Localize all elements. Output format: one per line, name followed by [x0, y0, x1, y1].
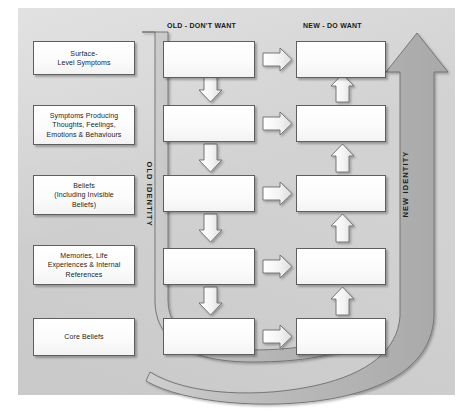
new-box-row-1[interactable]	[296, 41, 386, 78]
old-box-row-1[interactable]	[163, 41, 255, 78]
layer-box-beliefs: Beliefs(Including InvisibleBeliefs)	[33, 175, 135, 215]
down-arrow	[199, 74, 222, 102]
layer-box-memories-life-experiences: Memories, LifeExperiences & InternalRefe…	[33, 245, 135, 285]
up-arrow	[331, 74, 354, 102]
right-arrow	[263, 112, 292, 135]
down-arrow	[199, 144, 222, 172]
column-header-new: NEW - DO WANT	[303, 22, 362, 29]
old-identity-label: OLD IDENTITY	[145, 162, 154, 218]
old-box-row-4[interactable]	[163, 248, 255, 285]
cross-arrows-old-to-new	[263, 48, 292, 348]
new-identity-label: NEW IDENTITY	[401, 162, 410, 218]
new-box-row-5[interactable]	[296, 318, 386, 355]
right-arrow	[263, 325, 292, 348]
right-arrow	[263, 48, 292, 71]
layer-box-symptoms-producing: Symptoms ProducingThoughts, Feelings,Emo…	[33, 105, 135, 145]
new-box-row-3[interactable]	[296, 175, 386, 212]
layer-box-core-beliefs: Core Beliefs	[33, 318, 135, 356]
down-arrow	[199, 214, 222, 242]
column-header-old: OLD - DON'T WANT	[167, 22, 236, 29]
old-box-row-5[interactable]	[163, 318, 255, 355]
right-arrow	[263, 182, 292, 205]
old-box-row-3[interactable]	[163, 175, 255, 212]
up-arrow	[331, 214, 354, 242]
new-box-row-2[interactable]	[296, 105, 386, 142]
down-arrow	[199, 287, 222, 315]
new-box-row-4[interactable]	[296, 248, 386, 285]
layer-box-surface-level-symptoms: Surface-Level Symptoms	[33, 41, 135, 75]
up-arrow	[331, 287, 354, 315]
up-arrow	[331, 144, 354, 172]
old-box-row-2[interactable]	[163, 105, 255, 142]
right-arrow	[263, 255, 292, 278]
diagram-canvas: OLD - DON'T WANT NEW - DO WANT OLD IDENT…	[0, 0, 475, 419]
